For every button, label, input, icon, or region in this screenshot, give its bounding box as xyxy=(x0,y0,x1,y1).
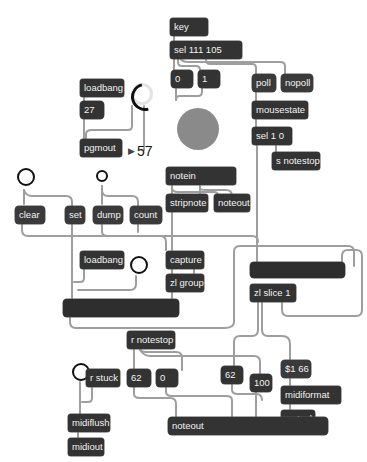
capture-object[interactable]: capture xyxy=(166,251,204,269)
loadbang-mid-object[interactable]: loadbang xyxy=(80,251,124,269)
number-62-a[interactable]: 62 xyxy=(127,369,151,387)
zl-slice-object[interactable]: zl slice 1 xyxy=(250,284,296,302)
number-100[interactable]: 100 xyxy=(250,374,272,392)
number-62-b[interactable]: 62 xyxy=(221,366,243,384)
dollar-66-message[interactable]: $1 66 xyxy=(281,360,311,378)
set-message[interactable]: set xyxy=(65,206,85,224)
notein-object[interactable]: notein xyxy=(166,167,236,185)
midiflush-object[interactable]: midiflush xyxy=(68,414,110,432)
dump-button-circle[interactable] xyxy=(96,170,108,182)
collected-message-box[interactable] xyxy=(250,262,345,278)
number-27[interactable]: 27 xyxy=(80,101,104,119)
zl-group-object[interactable]: zl group xyxy=(166,274,204,292)
sel-1-0-object[interactable]: sel 1 0 xyxy=(252,127,292,145)
sel-keys-object[interactable]: sel 111 105 xyxy=(170,41,242,59)
noteout-mid-object[interactable]: noteout xyxy=(214,194,250,212)
pgmout-object[interactable]: pgmout xyxy=(80,139,122,157)
r-stuck-object[interactable]: r stuck xyxy=(86,369,120,387)
program-dial[interactable] xyxy=(131,83,153,105)
program-number-value: 57 xyxy=(137,143,153,159)
key-object[interactable]: key xyxy=(170,18,208,36)
dump-message[interactable]: dump xyxy=(93,206,123,224)
triangle-icon: ▶ xyxy=(128,146,135,156)
bang-circle-mid[interactable] xyxy=(130,256,148,274)
poll-message[interactable]: poll xyxy=(252,74,276,92)
number-0-b[interactable]: 0 xyxy=(156,369,178,387)
clear-message[interactable]: clear xyxy=(15,206,45,224)
message-0-top[interactable]: 0 xyxy=(171,70,193,88)
noteout-bottom-object[interactable]: noteout xyxy=(168,417,328,435)
s-notestop-object[interactable]: s notestop xyxy=(272,152,320,170)
r-notestop-object[interactable]: r notestop xyxy=(127,331,175,349)
nopoll-message[interactable]: nopoll xyxy=(281,74,313,92)
stripnote-object[interactable]: stripnote xyxy=(166,194,208,212)
program-number-display[interactable]: ▶57 xyxy=(128,143,153,159)
midiout-object[interactable]: midiout xyxy=(68,438,104,456)
patcher-canvas[interactable]: key sel 111 105 0 1 poll nopoll mousesta… xyxy=(0,0,367,462)
led-ball[interactable] xyxy=(177,108,219,150)
loadbang-top-object[interactable]: loadbang xyxy=(80,79,124,97)
midiformat-object[interactable]: midiformat xyxy=(281,386,341,404)
list-message-box[interactable] xyxy=(63,299,179,317)
message-1-top[interactable]: 1 xyxy=(198,70,220,88)
clear-button-circle[interactable] xyxy=(17,168,35,186)
count-message[interactable]: count xyxy=(130,206,162,224)
mousestate-object[interactable]: mousestate xyxy=(252,101,308,119)
